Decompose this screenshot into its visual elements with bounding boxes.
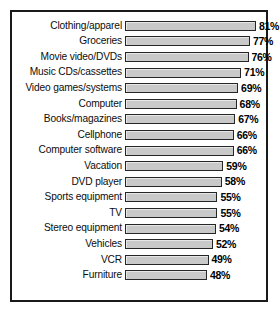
bar — [125, 52, 249, 62]
bar-row: Cellphone66% — [12, 127, 266, 143]
bar-row: Music CDs/cassettes71% — [12, 65, 266, 81]
bar-row: Computer68% — [12, 96, 266, 112]
bar-category-label: DVD player — [12, 177, 125, 187]
bar-category-label: Stereo equipment — [12, 223, 125, 233]
bar — [125, 99, 237, 109]
bar-row: DVD player58% — [12, 174, 266, 190]
bar-track: 76% — [125, 52, 272, 63]
bar-value-label: 66% — [234, 130, 257, 141]
bar — [125, 114, 235, 124]
bar-track: 59% — [125, 161, 266, 172]
bar-value-label: 49% — [209, 254, 232, 265]
bar-value-label: 59% — [223, 161, 246, 172]
bar-value-label: 77% — [250, 36, 273, 47]
bar-track: 67% — [125, 114, 266, 125]
bar-category-label: Computer — [12, 99, 125, 109]
bar-category-label: Books/magazines — [12, 114, 125, 124]
bar-row: Books/magazines67% — [12, 112, 266, 128]
bar-category-label: Music CDs/cassettes — [12, 67, 125, 77]
bar-value-label: 81% — [256, 21, 279, 32]
bar-value-label: 55% — [217, 192, 240, 203]
bar-track: 52% — [125, 239, 266, 250]
bar — [125, 146, 234, 156]
bar-track: 48% — [125, 270, 266, 281]
bar — [125, 208, 217, 218]
bar-row: TV55% — [12, 205, 266, 221]
bar — [125, 83, 238, 93]
bar-track: 49% — [125, 254, 266, 265]
bar-row: Groceries77% — [12, 34, 266, 50]
bar-value-label: 68% — [237, 99, 260, 110]
bar-value-label: 54% — [216, 223, 239, 234]
bar-track: 68% — [125, 99, 266, 110]
bar-row: Furniture48% — [12, 268, 266, 284]
bar-category-label: Furniture — [12, 270, 125, 280]
bar — [125, 21, 256, 31]
bar — [125, 224, 216, 234]
bar — [125, 130, 234, 140]
bar-category-label: Vacation — [12, 161, 125, 171]
bar — [125, 192, 217, 202]
bar-value-label: 71% — [241, 67, 264, 78]
bar-value-label: 66% — [234, 145, 257, 156]
bar-value-label: 48% — [207, 270, 230, 281]
bar-track: 66% — [125, 130, 266, 141]
bar-value-label: 76% — [249, 52, 272, 63]
bar — [125, 177, 222, 187]
bar-category-label: Video games/systems — [12, 83, 125, 93]
bar-category-label: Computer software — [12, 145, 125, 155]
bar-track: 81% — [125, 21, 279, 32]
bar — [125, 68, 241, 78]
bar-category-label: Movie video/DVDs — [12, 52, 125, 62]
bar-track: 55% — [125, 208, 266, 219]
bar-track: 55% — [125, 192, 266, 203]
bar-row: Sports equipment55% — [12, 190, 266, 206]
bar — [125, 239, 213, 249]
bar — [125, 270, 207, 280]
bar-row: Vehicles52% — [12, 236, 266, 252]
bar-chart-rows: Clothing/apparel81%Groceries77%Movie vid… — [12, 18, 266, 283]
bar-track: 69% — [125, 83, 266, 94]
bar-value-label: 67% — [235, 114, 258, 125]
bar-value-label: 52% — [213, 239, 236, 250]
bar-track: 58% — [125, 176, 266, 187]
bar-row: Movie video/DVDs76% — [12, 49, 266, 65]
bar-row: Video games/systems69% — [12, 80, 266, 96]
bar-row: Vacation59% — [12, 158, 266, 174]
chart-frame: Clothing/apparel81%Groceries77%Movie vid… — [10, 10, 268, 302]
bar — [125, 36, 250, 46]
bar-category-label: Clothing/apparel — [12, 21, 125, 31]
bar-category-label: Cellphone — [12, 130, 125, 140]
bar-row: Clothing/apparel81% — [12, 18, 266, 34]
bar — [125, 161, 223, 171]
bar-category-label: Sports equipment — [12, 192, 125, 202]
bar-category-label: Groceries — [12, 36, 125, 46]
bar-value-label: 58% — [222, 176, 245, 187]
bar-category-label: TV — [12, 208, 125, 218]
bar-row: Computer software66% — [12, 143, 266, 159]
bar-row: VCR49% — [12, 252, 266, 268]
bar-category-label: Vehicles — [12, 239, 125, 249]
bar-row: Stereo equipment54% — [12, 221, 266, 237]
bar-value-label: 55% — [217, 208, 240, 219]
bar-track: 66% — [125, 145, 266, 156]
bar-track: 77% — [125, 36, 273, 47]
bar-track: 54% — [125, 223, 266, 234]
bar-value-label: 69% — [238, 83, 261, 94]
bar-track: 71% — [125, 67, 266, 78]
bar-category-label: VCR — [12, 255, 125, 265]
bar — [125, 255, 209, 265]
